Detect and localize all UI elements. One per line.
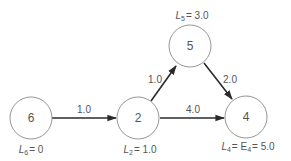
edge-5-4: 2.0 [204,63,237,99]
node-4: 4 L4= E4= 5.0 [221,96,275,153]
node-annotation: L5= 3.0 [176,10,209,22]
node-2: 2 L2= 1.0 [117,97,159,156]
edge-weight-5-4: 2.0 [223,74,237,85]
node-annotation: L2= 1.0 [124,144,157,156]
node-label: 6 [28,111,35,125]
node-label: 2 [135,111,142,125]
node-5: 5 L5= 3.0 [169,10,211,67]
node-label: 4 [243,110,250,124]
edge-weight-6-2: 1.0 [77,104,91,115]
edge-weight-2-5: 1.0 [148,74,162,85]
node-annotation: L6= 0 [19,144,44,156]
network-diagram: 1.0 1.0 4.0 2.0 6 L6= 0 2 L2= 1.0 5 L5= … [0,0,291,161]
edge-2-4: 4.0 [160,104,224,118]
node-6: 6 L6= 0 [10,97,52,156]
node-annotation: L4= E4= 5.0 [221,141,275,153]
node-label: 5 [187,39,194,53]
edge-6-2: 1.0 [52,104,116,118]
edge-2-5: 1.0 [148,66,176,101]
edge-weight-2-4: 4.0 [186,104,200,115]
